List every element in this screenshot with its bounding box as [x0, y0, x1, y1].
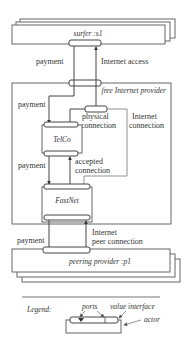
label-accepted-1: accepted	[75, 157, 103, 166]
legend-ports-pointer-left	[80, 311, 85, 317]
legend-value-interface	[70, 317, 118, 323]
fastnet-top-value-interface[interactable]	[44, 184, 90, 189]
provider-label: free Internet provider	[102, 86, 167, 95]
telco-top-value-interface[interactable]	[44, 122, 78, 127]
legend-value-interface-label: value interface	[110, 302, 155, 311]
label-internet-conn-1: Internet	[132, 112, 158, 121]
legend-value-interface-pointer	[119, 311, 126, 318]
legend-ports-pointer-right	[97, 311, 104, 317]
fastnet-bottom-value-interface[interactable]	[44, 215, 90, 220]
label-payment-top: payment	[36, 57, 64, 66]
label-physical-1: physical	[82, 112, 109, 121]
legend-actor-label: actor	[144, 315, 160, 324]
label-accepted-2: connection	[75, 166, 110, 175]
label-internet-conn-2: connection	[129, 121, 164, 130]
telco-label: TelCo	[53, 135, 71, 144]
surfer-label: surfer :s1	[74, 29, 103, 38]
peering-label: peering provider :p1	[68, 257, 131, 266]
legend: Legend: ports value interface actor	[22, 297, 160, 333]
label-internet-access: Internet access	[101, 57, 148, 66]
label-physical-2: connection	[81, 121, 116, 130]
fastnet-label: FastNet	[54, 196, 80, 205]
telco-bottom-value-interface[interactable]	[44, 151, 78, 156]
label-payment-bottom: payment	[17, 236, 45, 245]
label-payment-mid: payment	[18, 100, 46, 109]
e3value-diagram: surfer :s1 payment Internet access free …	[0, 0, 191, 345]
legend-actor-pointer	[124, 320, 141, 325]
legend-title: Legend:	[26, 305, 52, 314]
peering-value-interface[interactable]	[43, 247, 90, 253]
label-peer-1: Internet	[92, 228, 118, 237]
actor-fastnet[interactable]: FastNet	[42, 184, 92, 222]
label-payment-low: payment	[18, 161, 46, 170]
label-peer-2: peer connection	[92, 237, 143, 246]
actor-surfer[interactable]: surfer :s1	[12, 19, 175, 46]
actor-telco[interactable]: TelCo	[42, 122, 82, 156]
actor-peering-provider[interactable]: peering provider :p1	[12, 247, 180, 282]
surfer-value-interface[interactable]	[69, 40, 101, 46]
legend-ports-label: ports	[81, 302, 98, 311]
